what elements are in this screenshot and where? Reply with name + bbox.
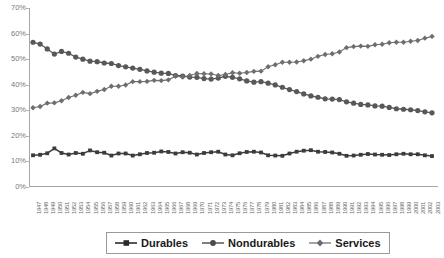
- data-point: [252, 150, 256, 154]
- x-axis-tick-label: 1974: [228, 202, 234, 214]
- data-point: [188, 151, 192, 155]
- data-point: [95, 150, 99, 154]
- data-point: [402, 152, 406, 156]
- data-point: [116, 63, 121, 68]
- data-point: [81, 152, 85, 156]
- data-point: [80, 90, 85, 95]
- data-point: [358, 43, 363, 48]
- data-point: [109, 84, 114, 89]
- data-point: [31, 153, 35, 157]
- data-point: [387, 153, 391, 157]
- data-point: [379, 42, 384, 47]
- data-point: [315, 95, 320, 100]
- data-point: [95, 59, 100, 64]
- data-point: [138, 152, 142, 156]
- x-axis-tick-label: 1997: [392, 202, 398, 214]
- x-axis-tick-label: 1971: [207, 202, 213, 214]
- data-point: [52, 51, 57, 56]
- data-point: [401, 40, 406, 45]
- data-point: [295, 150, 299, 154]
- data-point: [152, 70, 157, 75]
- data-point: [365, 102, 370, 107]
- data-point: [74, 151, 78, 155]
- data-point: [372, 103, 377, 108]
- x-axis-tick-label: 1955: [93, 202, 99, 214]
- data-point: [316, 150, 320, 154]
- x-axis-tick-label: 1953: [78, 202, 84, 214]
- data-point: [429, 34, 434, 39]
- data-point: [102, 151, 106, 155]
- x-axis-tick-label: 1988: [328, 202, 334, 214]
- data-point: [265, 64, 270, 69]
- x-axis-tick-label: 1979: [264, 202, 270, 214]
- data-point: [288, 152, 292, 156]
- legend-item-services[interactable]: Services: [309, 237, 380, 249]
- data-point: [67, 153, 71, 157]
- data-point: [273, 62, 278, 67]
- data-point: [308, 56, 313, 61]
- data-point: [294, 89, 299, 94]
- data-point: [344, 99, 349, 104]
- data-point: [337, 152, 341, 156]
- data-point: [59, 49, 64, 54]
- data-point: [123, 64, 128, 69]
- data-point: [280, 154, 284, 158]
- x-axis-tick-label: 1977: [249, 202, 255, 214]
- legend-item-durables[interactable]: Durables: [115, 237, 188, 249]
- data-point: [201, 76, 206, 81]
- data-point: [345, 154, 349, 158]
- x-axis-tick-label: 1963: [150, 202, 156, 214]
- data-point: [123, 82, 128, 87]
- x-axis-tick-label: 1964: [157, 202, 163, 214]
- data-point: [52, 100, 57, 105]
- data-point: [315, 54, 320, 59]
- data-point: [251, 80, 256, 85]
- data-point: [166, 150, 170, 154]
- data-point: [287, 87, 292, 92]
- data-point: [230, 75, 235, 80]
- y-axis-tick-label: 60%: [0, 29, 26, 38]
- data-point: [422, 35, 427, 40]
- data-point: [373, 153, 377, 157]
- data-point: [152, 151, 156, 155]
- legend-item-nondurables[interactable]: Nondurables: [202, 237, 295, 249]
- x-axis-tick-label: 1998: [399, 202, 405, 214]
- x-axis-tick-label: 1975: [235, 202, 241, 214]
- series-canvas: [29, 8, 438, 187]
- x-axis-tick-label: 1960: [128, 202, 134, 214]
- legend-label-services: Services: [335, 237, 380, 249]
- data-point: [159, 71, 164, 76]
- data-point: [201, 71, 206, 76]
- x-axis-tick-label: 1996: [385, 202, 391, 214]
- data-point: [166, 71, 171, 76]
- x-axis-tick-label: 1992: [356, 202, 362, 214]
- data-point: [124, 152, 128, 156]
- data-point: [237, 71, 242, 76]
- data-point: [380, 153, 384, 157]
- data-point: [352, 154, 356, 158]
- data-point: [251, 69, 256, 74]
- y-axis-tick-label: 50%: [0, 54, 26, 63]
- data-point: [344, 45, 349, 50]
- data-point: [244, 70, 249, 75]
- data-point: [195, 153, 199, 157]
- x-axis-tick-label: 1956: [100, 202, 106, 214]
- data-point: [45, 100, 50, 105]
- data-point: [330, 96, 335, 101]
- data-point: [130, 65, 135, 70]
- x-axis-tick-label: 1966: [171, 202, 177, 214]
- x-axis-tick-label: 2000: [413, 202, 419, 214]
- data-point: [394, 106, 399, 111]
- data-point: [59, 98, 64, 103]
- x-axis-tick-label: 1999: [406, 202, 412, 214]
- data-point: [330, 51, 335, 56]
- data-point: [30, 40, 35, 45]
- data-point: [280, 85, 285, 90]
- x-axis-tick-label: 1991: [349, 202, 355, 214]
- data-point: [159, 78, 164, 83]
- data-point: [94, 89, 99, 94]
- x-axis-tick-label: 1995: [378, 202, 384, 214]
- x-axis-tick-label: 1987: [321, 202, 327, 214]
- data-point: [151, 78, 156, 83]
- data-point: [365, 44, 370, 49]
